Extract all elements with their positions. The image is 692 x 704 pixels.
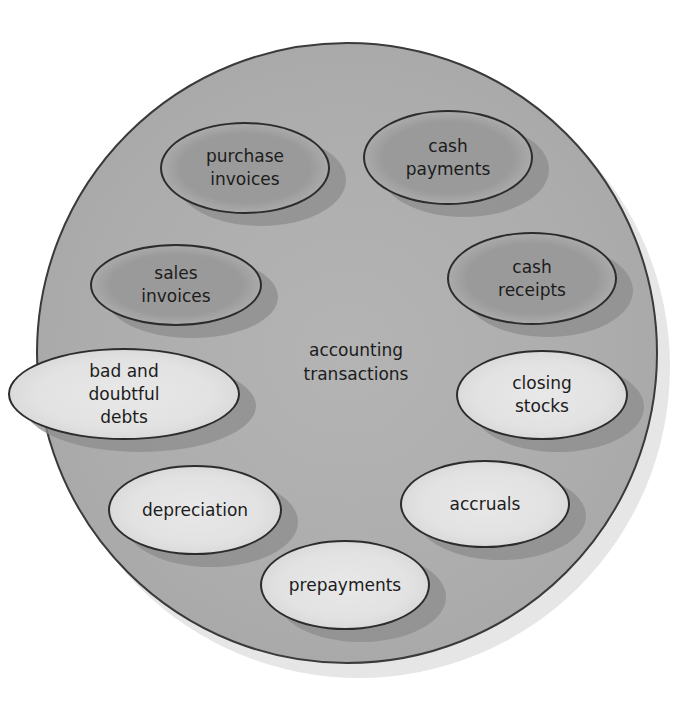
node-label: cash payments [406,135,491,181]
node-accruals: accruals [400,460,570,548]
node-label: bad and doubtful debts [89,360,160,429]
node-sales-invoices: sales invoices [90,244,262,326]
node-purchase-invoices: purchase invoices [160,122,330,214]
node-depreciation: depreciation [108,465,282,555]
node-label: prepayments [289,574,401,597]
node-cash-payments: cash payments [363,110,533,205]
node-label: cash receipts [498,256,566,302]
node-closing-stocks: closing stocks [456,350,628,440]
node-label: depreciation [142,499,248,522]
center-label: accounting transactions [286,338,426,386]
node-label: closing stocks [512,372,572,418]
node-label: accruals [450,493,521,516]
node-cash-receipts: cash receipts [447,232,617,325]
node-label: sales invoices [141,262,210,308]
center-label-text: accounting transactions [304,340,409,384]
node-bad-and-doubtful-debts: bad and doubtful debts [8,348,240,440]
node-prepayments: prepayments [260,540,430,630]
node-label: purchase invoices [206,145,284,191]
